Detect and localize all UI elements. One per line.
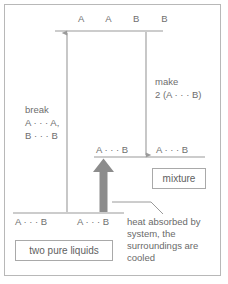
bottom-level-species-label-left: A · · · B xyxy=(15,216,47,227)
middle-level-species-label-left: A · · · B xyxy=(96,144,128,155)
heat-note-line1: heat absorbed by xyxy=(127,216,200,228)
break-arrow-label-line2: A · · · A, xyxy=(25,117,59,129)
bottom-level-species-label-right: A · · · B xyxy=(77,216,109,227)
enthalpy-diagram-figure: A A B B A · · · B A · · · B A · · · B A … xyxy=(0,0,228,284)
mixture-callout-box: mixture xyxy=(152,168,206,189)
heat-note-line4: cooled xyxy=(127,252,155,264)
net-enthalpy-arrow xyxy=(93,159,114,213)
two-pure-liquids-callout-label: two pure liquids xyxy=(29,245,98,257)
break-arrow-label-line1: break xyxy=(25,104,49,116)
make-arrow-label-line1: make xyxy=(155,76,178,88)
middle-level-species-label-right: A · · · B xyxy=(156,144,188,155)
heat-leader-line xyxy=(112,202,163,214)
heat-note-line3: surroundings are xyxy=(127,240,198,252)
two-pure-liquids-callout-box: two pure liquids xyxy=(15,240,113,261)
make-arrow-label-line2: 2 (A · · · B) xyxy=(155,89,201,101)
heat-note-line2: system, the xyxy=(127,228,176,240)
mixture-callout-label: mixture xyxy=(163,173,196,185)
top-level-species-label: A A B B xyxy=(78,13,171,24)
break-arrow-label-line3: B · · · B xyxy=(25,130,58,142)
